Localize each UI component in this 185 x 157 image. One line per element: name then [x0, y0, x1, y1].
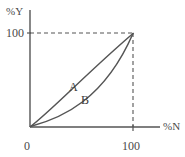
plot-canvas: %Y %N 100 100 0 A B [0, 0, 185, 157]
figure-container: %Y %N 100 100 0 A B [0, 0, 185, 157]
origin-label: 0 [24, 139, 30, 153]
x-axis-label: %N [163, 120, 180, 132]
x-tick-label-100: 100 [122, 139, 140, 153]
curve-a-path [31, 34, 134, 127]
curve-b-label: B [81, 93, 89, 107]
curve-a-label: A [69, 80, 78, 94]
y-tick-label-100: 100 [6, 26, 24, 40]
y-axis-label: %Y [6, 5, 23, 17]
